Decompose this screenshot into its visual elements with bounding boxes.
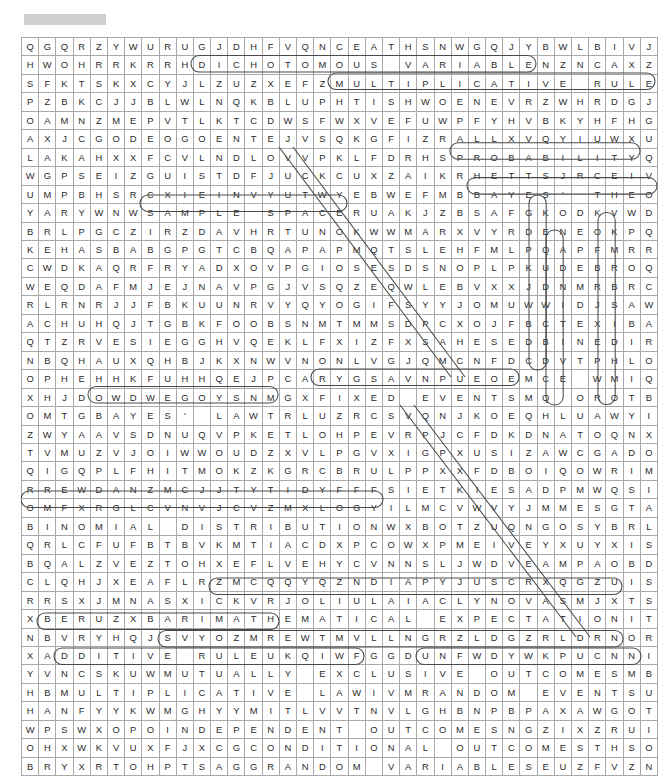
- puzzle-cell[interactable]: W: [623, 204, 640, 222]
- puzzle-cell[interactable]: M: [159, 702, 176, 720]
- puzzle-cell[interactable]: E: [572, 314, 589, 332]
- puzzle-cell[interactable]: J: [279, 130, 296, 148]
- puzzle-cell[interactable]: C: [176, 480, 193, 498]
- puzzle-cell[interactable]: A: [417, 222, 434, 240]
- puzzle-cell[interactable]: G: [297, 259, 314, 277]
- puzzle-cell[interactable]: B: [56, 93, 73, 111]
- puzzle-cell[interactable]: I: [176, 683, 193, 701]
- puzzle-cell[interactable]: I: [314, 259, 331, 277]
- puzzle-cell[interactable]: N: [434, 38, 451, 56]
- puzzle-cell[interactable]: F: [503, 204, 520, 222]
- puzzle-cell[interactable]: E: [572, 259, 589, 277]
- puzzle-cell[interactable]: I: [417, 167, 434, 185]
- puzzle-cell[interactable]: N: [22, 628, 39, 646]
- puzzle-cell[interactable]: L: [468, 130, 485, 148]
- puzzle-cell[interactable]: K: [451, 480, 468, 498]
- puzzle-cell[interactable]: V: [107, 739, 124, 757]
- puzzle-cell[interactable]: Y: [468, 591, 485, 609]
- puzzle-cell[interactable]: M: [434, 351, 451, 369]
- puzzle-cell[interactable]: N: [365, 702, 382, 720]
- puzzle-cell[interactable]: Q: [211, 370, 228, 388]
- puzzle-cell[interactable]: A: [468, 56, 485, 74]
- puzzle-cell[interactable]: M: [451, 536, 468, 554]
- puzzle-cell[interactable]: R: [90, 499, 107, 517]
- puzzle-cell[interactable]: G: [245, 757, 262, 775]
- puzzle-cell[interactable]: L: [382, 462, 399, 480]
- puzzle-cell[interactable]: P: [159, 757, 176, 775]
- puzzle-cell[interactable]: A: [365, 38, 382, 56]
- puzzle-cell[interactable]: S: [520, 757, 537, 775]
- puzzle-cell[interactable]: G: [606, 702, 623, 720]
- puzzle-cell[interactable]: O: [193, 388, 210, 406]
- puzzle-cell[interactable]: Q: [417, 407, 434, 425]
- puzzle-cell[interactable]: R: [90, 56, 107, 74]
- puzzle-cell[interactable]: O: [211, 443, 228, 461]
- puzzle-cell[interactable]: U: [365, 204, 382, 222]
- puzzle-cell[interactable]: J: [640, 38, 657, 56]
- puzzle-cell[interactable]: O: [22, 499, 39, 517]
- puzzle-cell[interactable]: C: [228, 240, 245, 258]
- puzzle-cell[interactable]: O: [245, 314, 262, 332]
- puzzle-cell[interactable]: C: [503, 610, 520, 628]
- puzzle-cell[interactable]: M: [572, 665, 589, 683]
- puzzle-cell[interactable]: A: [228, 407, 245, 425]
- puzzle-cell[interactable]: V: [297, 277, 314, 295]
- puzzle-cell[interactable]: U: [348, 591, 365, 609]
- puzzle-cell[interactable]: B: [640, 665, 657, 683]
- puzzle-cell[interactable]: E: [572, 683, 589, 701]
- puzzle-cell[interactable]: [434, 739, 451, 757]
- puzzle-cell[interactable]: B: [22, 757, 39, 775]
- puzzle-cell[interactable]: W: [400, 277, 417, 295]
- puzzle-cell[interactable]: L: [348, 148, 365, 166]
- puzzle-cell[interactable]: H: [537, 407, 554, 425]
- puzzle-cell[interactable]: C: [142, 499, 159, 517]
- puzzle-cell[interactable]: I: [211, 56, 228, 74]
- puzzle-cell[interactable]: Q: [537, 240, 554, 258]
- puzzle-cell[interactable]: R: [262, 591, 279, 609]
- puzzle-cell[interactable]: P: [56, 185, 73, 203]
- puzzle-cell[interactable]: J: [125, 443, 142, 461]
- puzzle-cell[interactable]: Y: [434, 296, 451, 314]
- puzzle-cell[interactable]: S: [417, 333, 434, 351]
- puzzle-cell[interactable]: B: [589, 259, 606, 277]
- puzzle-cell[interactable]: D: [537, 480, 554, 498]
- puzzle-cell[interactable]: M: [537, 739, 554, 757]
- puzzle-cell[interactable]: R: [125, 185, 142, 203]
- puzzle-cell[interactable]: S: [193, 167, 210, 185]
- puzzle-cell[interactable]: N: [451, 683, 468, 701]
- puzzle-cell[interactable]: O: [107, 720, 124, 738]
- puzzle-cell[interactable]: T: [331, 720, 348, 738]
- puzzle-cell[interactable]: P: [245, 277, 262, 295]
- puzzle-cell[interactable]: F: [486, 351, 503, 369]
- puzzle-cell[interactable]: S: [606, 665, 623, 683]
- puzzle-cell[interactable]: C: [589, 56, 606, 74]
- puzzle-cell[interactable]: M: [365, 314, 382, 332]
- puzzle-cell[interactable]: J: [142, 277, 159, 295]
- puzzle-cell[interactable]: U: [623, 720, 640, 738]
- puzzle-cell[interactable]: T: [382, 74, 399, 92]
- puzzle-cell[interactable]: F: [245, 167, 262, 185]
- puzzle-cell[interactable]: O: [486, 665, 503, 683]
- puzzle-cell[interactable]: Z: [262, 499, 279, 517]
- puzzle-cell[interactable]: C: [107, 222, 124, 240]
- puzzle-cell[interactable]: L: [228, 646, 245, 664]
- puzzle-cell[interactable]: O: [193, 130, 210, 148]
- puzzle-cell[interactable]: X: [107, 573, 124, 591]
- puzzle-cell[interactable]: U: [107, 536, 124, 554]
- puzzle-cell[interactable]: Z: [142, 554, 159, 572]
- puzzle-cell[interactable]: O: [520, 739, 537, 757]
- puzzle-cell[interactable]: X: [39, 130, 56, 148]
- puzzle-cell[interactable]: C: [245, 573, 262, 591]
- puzzle-cell[interactable]: L: [640, 517, 657, 535]
- puzzle-cell[interactable]: I: [107, 517, 124, 535]
- puzzle-cell[interactable]: S: [382, 480, 399, 498]
- puzzle-cell[interactable]: A: [572, 702, 589, 720]
- puzzle-cell[interactable]: J: [107, 296, 124, 314]
- puzzle-cell[interactable]: E: [314, 665, 331, 683]
- puzzle-cell[interactable]: B: [142, 536, 159, 554]
- puzzle-cell[interactable]: M: [159, 480, 176, 498]
- puzzle-cell[interactable]: E: [503, 370, 520, 388]
- puzzle-cell[interactable]: R: [537, 628, 554, 646]
- puzzle-cell[interactable]: K: [537, 204, 554, 222]
- puzzle-cell[interactable]: C: [572, 443, 589, 461]
